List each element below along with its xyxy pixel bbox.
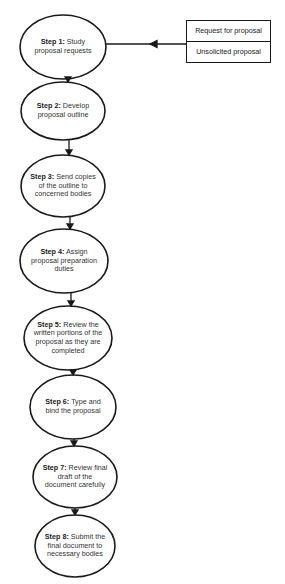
step-4-node: Step 4: Assignproposal preparationduties [20, 229, 108, 293]
arrow-left-icon [150, 41, 157, 48]
step-2-node: Step 2: Developproposal outline [21, 82, 105, 140]
step-3-node: Step 3: Send copiesof the outline toconc… [21, 155, 105, 217]
step-1-node: Step 1: Studyproposal requests [20, 15, 106, 79]
step-8-node: Step 8: Submit thefinal document toneces… [35, 515, 115, 577]
step-6-node: Step 6: Type andbind the proposal [30, 375, 116, 439]
step-5-node: Step 5: Review thewritten portions of th… [24, 306, 112, 370]
source-unsolicited-proposal: Unsolicited proposal [187, 42, 270, 63]
source-request-for-proposal: Request for proposal [187, 21, 270, 42]
step-7-node: Step 7: Review finaldraft of thedocument… [33, 446, 117, 508]
input-sources-box: Request for proposal Unsolicited proposa… [186, 20, 271, 63]
